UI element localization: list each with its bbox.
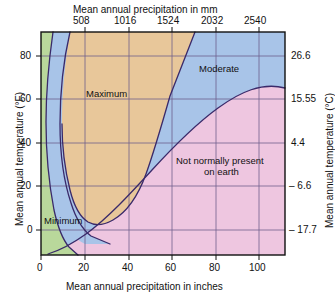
- bottom-axis-title: Mean annual precipitation in inches: [66, 281, 223, 292]
- top-tick-1016: 1016: [114, 15, 136, 26]
- top-tick-1524: 1524: [157, 15, 179, 26]
- bottom-tick-80: 80: [209, 262, 220, 273]
- region-label-minimum: Minimum: [44, 215, 83, 226]
- left-tick-0: 0: [27, 224, 33, 235]
- right-tick-minus-17-7: – 17.7: [289, 224, 317, 235]
- bottom-tick-40: 40: [122, 262, 133, 273]
- top-tick-508: 508: [73, 15, 90, 26]
- right-tick-26-6: 26.6: [291, 50, 310, 61]
- right-axis-title: Mean annual temperature (°C): [324, 93, 335, 228]
- region-label-not-normally-present-line2: on earth: [204, 166, 239, 177]
- region-label-moderate: Moderate: [199, 63, 239, 74]
- top-axis-title: Mean annual precipitation in mm: [73, 4, 218, 15]
- right-tick-15-55: 15.55: [291, 93, 316, 104]
- right-tick-4-4: 4.4: [291, 137, 305, 148]
- region-label-maximum: Maximum: [86, 88, 127, 99]
- right-tick-minus-6-6: – 6.6: [289, 180, 311, 191]
- bottom-tick-0: 0: [37, 262, 43, 273]
- top-tick-2032: 2032: [201, 15, 223, 26]
- left-tick-80: 80: [20, 50, 31, 61]
- region-label-not-normally-present-line1: Not normally present: [176, 155, 264, 166]
- bottom-tick-20: 20: [78, 262, 89, 273]
- bottom-tick-100: 100: [249, 262, 266, 273]
- top-tick-2540: 2540: [244, 15, 266, 26]
- left-axis-title: Mean annual temperature (°F): [14, 92, 25, 226]
- bottom-tick-60: 60: [165, 262, 176, 273]
